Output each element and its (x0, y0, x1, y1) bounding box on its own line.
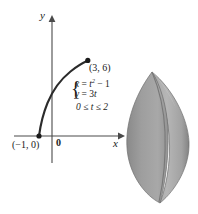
solid-of-revolution-graphic (0, 0, 198, 214)
textbook-figure: y x 0 (−1, 0) (3, 6) { x = t2 − 1 y = 3t… (0, 0, 198, 214)
